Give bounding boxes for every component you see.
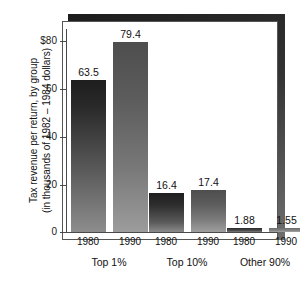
bar-value-top10-1980: 16.4 (156, 180, 176, 191)
y-tick-mark-20 (60, 185, 67, 186)
x-tick-label-top10-1980: 1980 (155, 236, 177, 247)
x-tick-label-top1-1980: 1980 (77, 236, 99, 247)
x-axis-line (66, 232, 277, 233)
y-tick-mark-60 (60, 89, 67, 90)
group-label-other90: Other 90% (240, 256, 290, 268)
y-tick-label-40: 40 (46, 132, 57, 142)
bar-other90-1990: 1.55 (269, 228, 300, 232)
y-tick-mark-80 (60, 41, 67, 42)
y-axis-title-line-1: Tax revenue per return, by group (28, 31, 41, 231)
x-tick-labels: 1980 1990 1980 1990 1980 1990 (67, 236, 277, 250)
y-tick-mark-40 (60, 137, 67, 138)
bar-top10-1980: 16.4 (149, 193, 184, 232)
x-tick-label-other90-1990: 1990 (275, 236, 297, 247)
bar-chart-figure: Tax revenue per return, by group (in tho… (0, 0, 300, 283)
y-tick-label-20: 20 (46, 180, 57, 190)
group-label-top10: Top 10% (167, 256, 208, 268)
x-tick-label-other90-1980: 1980 (233, 236, 255, 247)
x-tick-label-top1-1990: 1990 (119, 236, 141, 247)
y-tick-label-80: $80 (40, 36, 57, 46)
bar-top1-1990: 79.4 (113, 42, 148, 232)
group-label-top1: Top 1% (91, 256, 126, 268)
bar-value-other90-1990: 1.55 (276, 215, 296, 226)
bar-value-top1-1980: 63.5 (78, 67, 98, 78)
y-tick-label-0: 0 (51, 227, 57, 237)
x-tick-label-top10-1990: 1990 (197, 236, 219, 247)
bar-value-other90-1980: 1.88 (234, 215, 254, 226)
x-group-labels: Top 1% Top 10% Other 90% (67, 256, 277, 272)
bar-other90-1980: 1.88 (227, 228, 262, 233)
bar-value-top1-1990: 79.4 (120, 29, 140, 40)
bar-top1-1980: 63.5 (71, 80, 106, 232)
y-tick-label-60: 60 (46, 84, 57, 94)
bars-area: 63.5 79.4 16.4 17.4 1.88 1.55 (67, 29, 277, 232)
bar-top10-1990: 17.4 (191, 190, 226, 232)
bar-value-top10-1990: 17.4 (198, 177, 218, 188)
y-tick-mark-0 (60, 232, 67, 233)
